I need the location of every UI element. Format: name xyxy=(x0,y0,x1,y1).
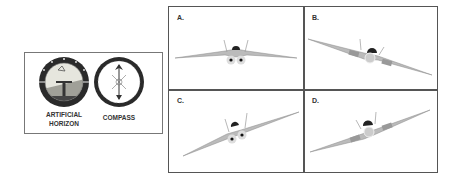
artificial-horizon-icon xyxy=(38,56,90,108)
option-d-label: D. xyxy=(312,97,319,104)
label-line-1: ARTIFICIAL xyxy=(36,110,92,119)
compass-dial xyxy=(93,56,145,108)
option-a-label: A. xyxy=(177,14,184,21)
option-b-label: B. xyxy=(312,14,319,21)
aircraft-bank-right-icon xyxy=(304,7,438,89)
answer-grid: A. B. C. xyxy=(168,6,438,173)
artificial-horizon-dial xyxy=(38,56,90,108)
compass-label: COMPASS xyxy=(91,113,147,122)
option-d-panel[interactable]: D. xyxy=(304,90,438,172)
option-c-label: C. xyxy=(177,97,184,104)
aircraft-level-icon xyxy=(169,7,303,89)
instrument-panel: ARTIFICIAL HORIZON COMPASS xyxy=(24,52,163,134)
aircraft-bank-left-rear-icon xyxy=(304,90,438,172)
option-a-panel[interactable]: A. xyxy=(169,7,303,89)
option-c-panel[interactable]: C. xyxy=(169,90,303,172)
aircraft-bank-left-icon xyxy=(169,90,303,172)
label-line-2: HORIZON xyxy=(36,119,92,128)
option-b-panel[interactable]: B. xyxy=(304,7,438,89)
compass-icon xyxy=(93,56,145,108)
artificial-horizon-label: ARTIFICIAL HORIZON xyxy=(36,110,92,128)
